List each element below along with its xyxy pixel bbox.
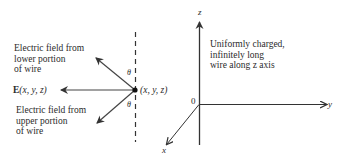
origin-label: 0 — [191, 96, 196, 107]
x-axis-label: x — [162, 145, 166, 156]
x-axis-line — [167, 105, 199, 145]
field-point-dot — [132, 87, 137, 92]
upper-portion-field-label: Electric field from upper portion of wir… — [16, 105, 86, 137]
resultant-field-label: E(x, y, z) — [13, 85, 47, 96]
angle-upper-label: θ — [127, 68, 131, 79]
point-coordinates-label: (x, y, z) — [140, 85, 167, 96]
angle-lower-label: θ — [127, 100, 131, 111]
y-axis-label: y — [328, 99, 332, 110]
lower-portion-field-label: Electric field from lower portion of wir… — [14, 43, 84, 75]
wire-description-label: Uniformly charged, infinitely long wire … — [210, 39, 285, 71]
z-axis-label: z — [198, 7, 202, 18]
